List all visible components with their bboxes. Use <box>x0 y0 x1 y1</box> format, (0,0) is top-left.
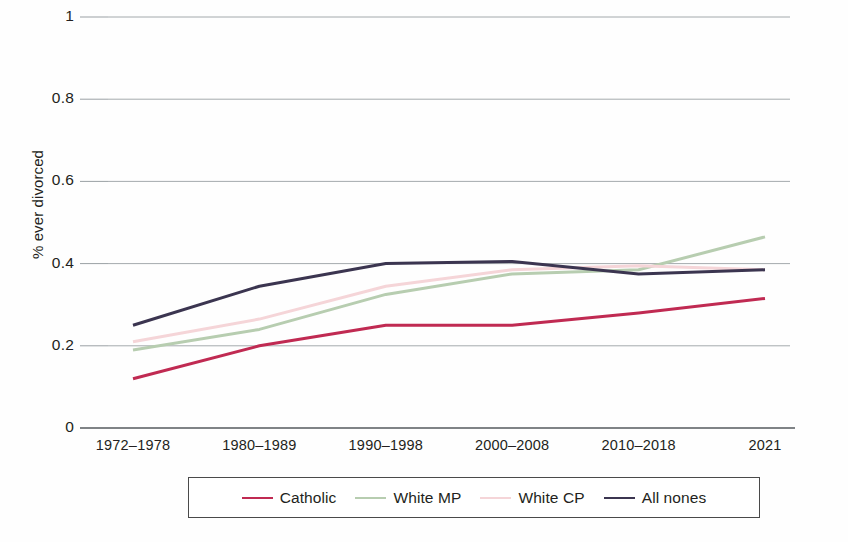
series-line-white-mp <box>133 237 765 350</box>
line-chart: % ever divorced 00.20.40.60.81 1972–1978… <box>0 0 848 470</box>
legend-entry-catholic[interactable]: Catholic <box>242 489 337 507</box>
legend-label: White MP <box>393 489 461 507</box>
legend-line-swatch <box>242 497 273 499</box>
legend-line-swatch <box>604 497 635 499</box>
legend-label: All nones <box>642 489 707 507</box>
series-line-all-nones <box>133 262 765 326</box>
series-lines <box>133 237 765 379</box>
legend-entry-white-cp[interactable]: White CP <box>480 489 584 507</box>
series-line-catholic <box>133 299 765 379</box>
chart-page: % ever divorced 00.20.40.60.81 1972–1978… <box>0 0 848 542</box>
plot-canvas <box>0 0 848 470</box>
legend-label: White CP <box>518 489 584 507</box>
legend-line-swatch <box>355 497 386 499</box>
legend-label: Catholic <box>280 489 337 507</box>
chart-legend: CatholicWhite MPWhite CPAll nones <box>188 477 760 518</box>
series-line-white-cp <box>133 266 765 342</box>
legend-entry-all-nones[interactable]: All nones <box>604 489 707 507</box>
legend-entry-white-mp[interactable]: White MP <box>355 489 461 507</box>
legend-line-swatch <box>480 497 511 499</box>
gridlines <box>108 17 790 346</box>
axis-lines <box>80 17 795 428</box>
